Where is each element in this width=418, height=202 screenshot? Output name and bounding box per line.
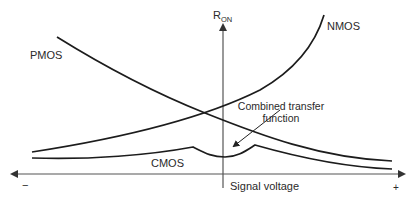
annotation-line2: function [263, 112, 300, 124]
positive-end-label: + [393, 182, 399, 193]
vertical-axis-label-sub: ON [221, 15, 232, 24]
cmos-label: CMOS [151, 157, 184, 169]
pmos-curve [57, 37, 392, 161]
cmos-curve [32, 145, 392, 169]
vertical-axis-label: RON [213, 9, 232, 24]
vertical-axis-label-main: R [213, 9, 221, 21]
ron-diagram: PMOS NMOS CMOS Combined transfer functio… [0, 0, 418, 202]
annotation-line1: Combined transfer [238, 100, 325, 112]
negative-end-label: − [22, 179, 28, 191]
horizontal-axis-label: Signal voltage [230, 180, 299, 192]
pmos-label: PMOS [30, 49, 62, 61]
nmos-label: NMOS [327, 20, 360, 32]
nmos-curve [32, 15, 324, 152]
